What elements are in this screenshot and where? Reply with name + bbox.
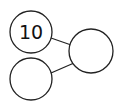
circle-right[interactable]	[69, 29, 113, 73]
number-bond-diagram: 10	[0, 0, 120, 103]
connector-bottom	[51, 63, 74, 73]
circle-bottom-left[interactable]	[10, 58, 52, 100]
circle-top-left-value: 10	[19, 21, 43, 43]
